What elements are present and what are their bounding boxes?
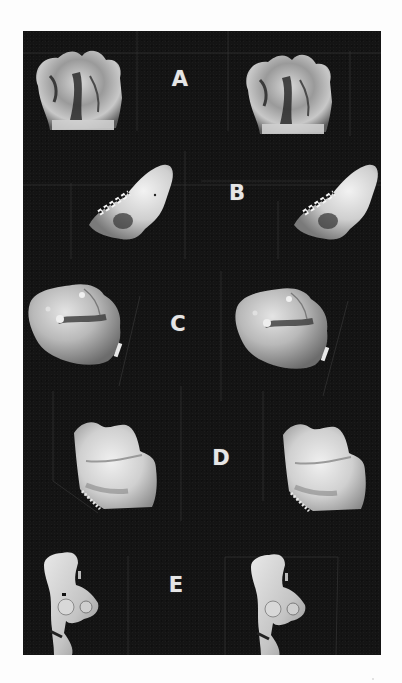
specimen-d-left	[74, 422, 157, 509]
specimen-e-right	[251, 554, 305, 655]
specimen-c-right	[235, 288, 329, 368]
specimen-a-right	[246, 55, 332, 134]
specimen-b-left	[89, 165, 173, 240]
row-label-d: D	[212, 448, 229, 469]
row-label-c: C	[170, 314, 185, 335]
specimen-b-right	[294, 165, 378, 240]
specimen-c-left	[28, 284, 122, 364]
stereo-photo-plate: A B C D E	[23, 31, 381, 655]
specimen-d-right	[283, 424, 366, 511]
row-label-b: B	[229, 183, 245, 204]
specimen-figures	[23, 31, 381, 655]
scan-speck	[372, 678, 374, 680]
specimen-e-left	[44, 552, 98, 655]
row-label-a: A	[172, 69, 188, 90]
specimen-a-left	[36, 51, 122, 130]
row-label-e: E	[169, 575, 183, 596]
